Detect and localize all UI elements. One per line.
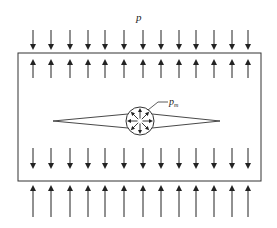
arrow-row-top-inner <box>33 62 248 78</box>
leader-line <box>148 102 168 110</box>
external-pressure-label: p <box>135 11 142 23</box>
arrow-row-bottom-outer <box>33 188 248 217</box>
fracture-pressure-diagram: p pm <box>0 0 277 228</box>
arrow-row-bottom-inner <box>33 148 248 166</box>
arrow-row-top-outer <box>33 30 248 47</box>
internal-pressure-label: pm <box>168 96 179 108</box>
